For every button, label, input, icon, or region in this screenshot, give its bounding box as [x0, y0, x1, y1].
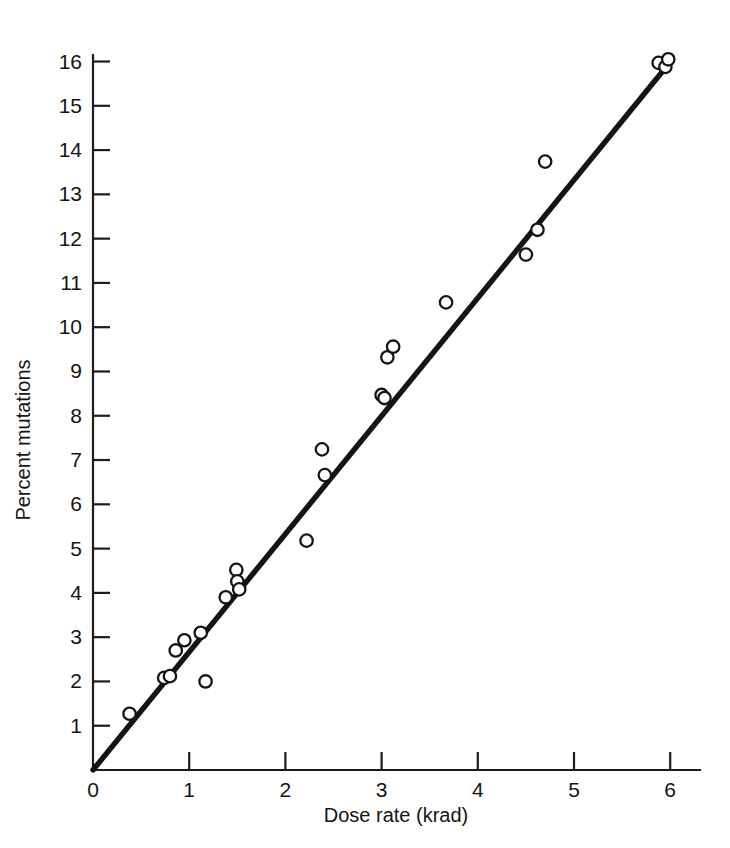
- x-tick-label: 1: [183, 778, 195, 801]
- x-tick-label: 3: [376, 778, 388, 801]
- data-point-marker: [378, 392, 390, 404]
- figure-container: 12345678910111213141516 0123456 Dose rat…: [0, 0, 730, 848]
- data-point-marker: [520, 248, 532, 260]
- data-point-marker: [531, 224, 543, 236]
- y-tick-label: 9: [70, 359, 82, 382]
- data-point-marker: [123, 708, 135, 720]
- y-tick-label: 1: [70, 714, 82, 737]
- data-point-marker: [199, 675, 211, 687]
- data-point-marker: [319, 469, 331, 481]
- scatter-plot: 12345678910111213141516 0123456 Dose rat…: [0, 0, 730, 848]
- data-point-marker: [233, 583, 245, 595]
- x-tick-label: 0: [87, 778, 99, 801]
- y-tick-label: 3: [70, 625, 82, 648]
- y-tick-label: 7: [70, 448, 82, 471]
- y-tick-label: 15: [59, 94, 82, 117]
- x-tick-label: 2: [280, 778, 292, 801]
- data-point-marker: [440, 296, 452, 308]
- fit-line: [93, 62, 670, 770]
- y-tick-label: 5: [70, 537, 82, 560]
- y-tick-label: 8: [70, 404, 82, 427]
- data-point-marker: [178, 634, 190, 646]
- data-point-marker: [195, 627, 207, 639]
- y-axis-ticks: 12345678910111213141516: [59, 50, 110, 737]
- y-axis-title: Percent mutations: [12, 359, 34, 520]
- data-points: [123, 53, 674, 720]
- fit-line-segment: [93, 62, 670, 770]
- data-point-marker: [300, 534, 312, 546]
- caption-sliver: [0, 834, 730, 848]
- x-axis-ticks: 0123456: [87, 752, 676, 801]
- y-tick-label: 12: [59, 227, 82, 250]
- x-tick-label: 6: [664, 778, 676, 801]
- data-point-marker: [387, 340, 399, 352]
- y-tick-label: 14: [59, 138, 83, 161]
- y-tick-label: 2: [70, 669, 82, 692]
- x-tick-label: 5: [568, 778, 580, 801]
- y-tick-label: 6: [70, 492, 82, 515]
- data-point-marker: [220, 591, 232, 603]
- x-tick-label: 4: [472, 778, 484, 801]
- x-axis-title: Dose rate (krad): [324, 804, 469, 826]
- y-tick-label: 16: [59, 50, 82, 73]
- y-tick-label: 4: [70, 581, 82, 604]
- data-point-marker: [316, 443, 328, 455]
- y-tick-label: 11: [60, 271, 82, 294]
- y-tick-label: 13: [59, 182, 82, 205]
- data-point-marker: [662, 53, 674, 65]
- data-point-marker: [164, 670, 176, 682]
- y-tick-label: 10: [59, 315, 82, 338]
- data-point-marker: [539, 155, 551, 167]
